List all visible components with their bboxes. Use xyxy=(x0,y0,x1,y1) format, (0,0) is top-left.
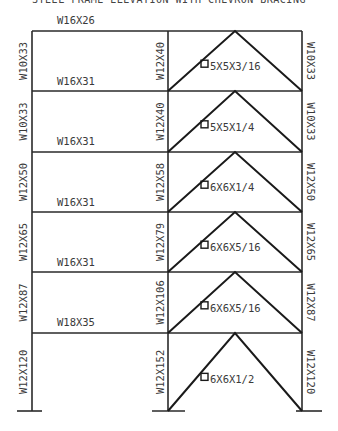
column-label-right: W12X50 xyxy=(305,163,317,201)
brace-label: 6X6X5/16 xyxy=(210,302,261,314)
column-label-right: W12X65 xyxy=(305,223,317,261)
column-label-left: W12X50 xyxy=(17,163,29,201)
column-label-middle: W12X40 xyxy=(154,42,166,80)
chevron-brace-story-6 xyxy=(168,333,302,411)
frame-elevation: W16X26W16X31W16X31W16X31W16X31W18X35W10X… xyxy=(0,0,338,431)
frame-members xyxy=(17,31,322,411)
column-label-left: W12X87 xyxy=(17,283,29,321)
column-label-left: W10X33 xyxy=(17,102,29,140)
brace-label: 6X6X5/16 xyxy=(210,241,261,253)
brace-label: 6X6X1/2 xyxy=(210,373,254,385)
column-label-left: W10X33 xyxy=(17,42,29,80)
brace-label: 5X5X1/4 xyxy=(210,121,254,133)
column-label-right: W12X120 xyxy=(305,350,317,394)
hss-section-icon xyxy=(201,373,208,380)
beam-label: W16X31 xyxy=(57,75,95,87)
column-label-middle: W12X106 xyxy=(154,280,166,324)
column-label-middle: W12X79 xyxy=(154,223,166,261)
beam-label: W16X31 xyxy=(57,256,95,268)
column-label-middle: W12X58 xyxy=(154,163,166,201)
column-label-middle: W12X152 xyxy=(154,350,166,394)
beam-label: W16X31 xyxy=(57,196,95,208)
column-label-middle: W12X40 xyxy=(154,102,166,140)
column-label-left: W12X65 xyxy=(17,223,29,261)
brace-label: 6X6X1/4 xyxy=(210,181,254,193)
column-label-left: W12X120 xyxy=(17,350,29,394)
column-label-right: W12X87 xyxy=(305,284,317,322)
beam-label: W16X26 xyxy=(57,14,95,26)
beam-label: W18X35 xyxy=(57,316,95,328)
brace-label: 5X5X3/16 xyxy=(210,60,261,72)
column-label-right: W10X33 xyxy=(305,103,317,141)
member-labels: W16X26W16X31W16X31W16X31W16X31W18X35W10X… xyxy=(17,14,317,394)
column-label-right: W10X33 xyxy=(305,42,317,80)
beam-label: W16X31 xyxy=(57,135,95,147)
